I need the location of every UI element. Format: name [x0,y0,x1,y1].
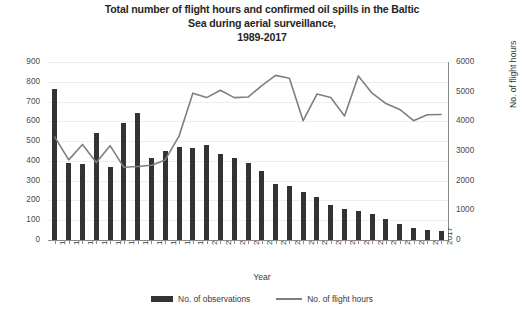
chart-title-line-3: 1989-2017 [62,30,462,44]
x-axis-tick [303,240,304,244]
x-axis-tick [331,240,332,244]
y-axis-left-tick-label: 700 [10,97,40,106]
y-axis-left-tick-label: 800 [10,77,40,86]
x-axis-tick [414,240,415,244]
y-axis-right-tick-label: 4000 [456,116,490,125]
legend-item-flight-hours: No. of flight hours [276,294,373,304]
x-axis-tick [276,240,277,244]
y-axis-left-tick-label: 200 [10,195,40,204]
plot-area [48,62,448,240]
y-axis-left-tick-label: 600 [10,116,40,125]
x-axis-tick [386,240,387,244]
legend-item-observations: No. of observations [151,294,250,304]
x-axis-tick [55,240,56,244]
x-axis-tick [82,240,83,244]
x-axis-tick [317,240,318,244]
y-axis-right-tick-label: 1000 [456,205,490,214]
chart-title-line-1: Total number of flight hours and confirm… [62,2,462,16]
y-axis-right-tick-label: 5000 [456,87,490,96]
chart-title: Total number of flight hours and confirm… [62,2,462,45]
line-swatch-icon [276,298,302,300]
x-axis-title: Year [0,272,524,282]
y-axis-right-title: No. of flight hours [508,41,518,108]
chart-title-line-2: Sea during aerial surveillance, [62,16,462,30]
x-axis-tick [165,240,166,244]
x-axis-tick [207,240,208,244]
x-axis-tick [96,240,97,244]
x-axis-tick [69,240,70,244]
x-axis-tick [427,240,428,244]
x-axis-tick [358,240,359,244]
y-axis-left-tick-label: 500 [10,136,40,145]
bar-swatch-icon [151,296,173,302]
x-axis-tick [193,240,194,244]
x-axis-tick [110,240,111,244]
x-axis-tick [179,240,180,244]
x-axis-tick [138,240,139,244]
y-axis-right-line [448,62,449,241]
x-axis-tick [289,240,290,244]
y-axis-left-tick-label: 0 [10,235,40,244]
legend-label-flight-hours: No. of flight hours [307,294,373,304]
x-axis-tick [234,240,235,244]
x-axis-tick [400,240,401,244]
y-axis-left-tick-label: 300 [10,176,40,185]
y-axis-right-tick-label: 6000 [456,57,490,66]
y-axis-left-tick-label: 900 [10,57,40,66]
y-axis-right-tick-label: 0 [456,235,490,244]
chart-legend: No. of observations No. of flight hours [0,294,524,304]
y-axis-right-tick-label: 3000 [456,146,490,155]
x-axis-tick [345,240,346,244]
chart-figure: Total number of flight hours and confirm… [0,0,524,323]
line-series [48,62,448,240]
legend-label-observations: No. of observations [178,294,250,304]
x-axis-tick [151,240,152,244]
y-axis-left-tick-label: 400 [10,156,40,165]
x-axis-tick [372,240,373,244]
y-axis-right-tick-label: 2000 [456,176,490,185]
y-axis-left-tick-label: 100 [10,215,40,224]
x-axis-tick [262,240,263,244]
x-axis-tick [124,240,125,244]
x-axis-tick [248,240,249,244]
line-path [55,75,441,167]
flight-hours-line [48,62,448,240]
x-axis-tick [441,240,442,244]
x-axis-tick [220,240,221,244]
